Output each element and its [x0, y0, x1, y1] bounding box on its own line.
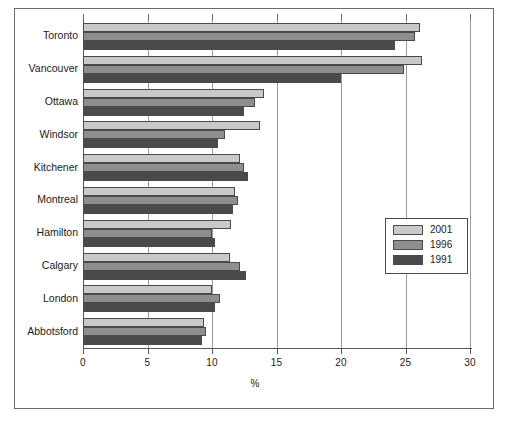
bar-windsor-1996: [83, 130, 225, 139]
tick-top-15: [277, 14, 278, 20]
category-label-windsor: Windsor: [2, 128, 78, 140]
x-tick-label-5: 5: [135, 357, 161, 368]
tick-top-0: [83, 14, 84, 20]
category-label-vancouver: Vancouver: [2, 62, 78, 74]
bar-london-1991: [83, 303, 215, 312]
legend-swatch-1996: [393, 240, 423, 250]
tick-top-5: [148, 14, 149, 20]
category-label-kitchener: Kitchener: [2, 161, 78, 173]
bar-toronto-1996: [83, 32, 415, 41]
tick-top-20: [341, 14, 342, 20]
bar-london-2001: [83, 285, 212, 294]
bar-calgary-2001: [83, 253, 230, 262]
tick-bottom-0: [83, 348, 84, 354]
tick-bottom-15: [277, 348, 278, 354]
tick-top-25: [406, 14, 407, 20]
x-tick-label-10: 10: [199, 357, 225, 368]
bar-ottawa-2001: [83, 89, 264, 98]
tick-top-30: [470, 14, 471, 20]
bottom-caption: [14, 414, 494, 423]
legend-swatch-2001: [393, 225, 423, 235]
bar-abbotsford-1996: [83, 327, 206, 336]
category-label-toronto: Toronto: [2, 29, 78, 41]
tick-bottom-10: [212, 348, 213, 354]
category-label-abbotsford: Abbotsford: [2, 325, 78, 337]
x-tick-label-20: 20: [328, 357, 354, 368]
tick-bottom-20: [341, 348, 342, 354]
bar-hamilton-1996: [83, 229, 212, 238]
x-tick-label-0: 0: [70, 357, 96, 368]
legend-label-1996: 1996: [430, 239, 452, 250]
chart-legend: 2001 1996 1991: [385, 218, 468, 274]
category-label-montreal: Montreal: [2, 193, 78, 205]
bar-ottawa-1991: [83, 107, 244, 116]
tick-bottom-30: [470, 348, 471, 354]
bar-montreal-1996: [83, 196, 238, 205]
x-tick-label-15: 15: [264, 357, 290, 368]
legend-label-2001: 2001: [430, 224, 452, 235]
bar-kitchener-1991: [83, 172, 248, 181]
x-axis-title: %: [0, 378, 510, 389]
bar-windsor-2001: [83, 121, 260, 130]
plot-area: [83, 20, 470, 348]
category-axis-labels: TorontoVancouverOttawaWindsorKitchenerMo…: [0, 0, 78, 423]
x-axis-line: [83, 348, 472, 349]
tick-bottom-25: [406, 348, 407, 354]
bar-windsor-1991: [83, 139, 218, 148]
chart-figure: TorontoVancouverOttawaWindsorKitchenerMo…: [0, 0, 510, 423]
bar-london-1996: [83, 294, 220, 303]
bar-vancouver-2001: [83, 56, 422, 65]
bar-hamilton-2001: [83, 220, 231, 229]
x-tick-label-30: 30: [457, 357, 483, 368]
bar-vancouver-1996: [83, 65, 404, 74]
bar-abbotsford-2001: [83, 318, 204, 327]
bar-ottawa-1996: [83, 98, 255, 107]
category-label-hamilton: Hamilton: [2, 226, 78, 238]
legend-swatch-1991: [393, 255, 423, 265]
category-label-london: London: [2, 292, 78, 304]
bar-toronto-1991: [83, 41, 395, 50]
gridline-30: [470, 20, 471, 348]
x-tick-label-25: 25: [393, 357, 419, 368]
bar-kitchener-2001: [83, 154, 240, 163]
gridline-25: [406, 20, 407, 348]
bar-vancouver-1991: [83, 74, 341, 83]
category-label-calgary: Calgary: [2, 259, 78, 271]
legend-label-1991: 1991: [430, 254, 452, 265]
tick-bottom-5: [148, 348, 149, 354]
bar-montreal-2001: [83, 187, 235, 196]
bar-abbotsford-1991: [83, 336, 202, 345]
category-label-ottawa: Ottawa: [2, 95, 78, 107]
bar-calgary-1996: [83, 262, 240, 271]
bar-montreal-1991: [83, 205, 233, 214]
bar-toronto-2001: [83, 23, 420, 32]
bar-hamilton-1991: [83, 238, 215, 247]
bar-kitchener-1996: [83, 163, 244, 172]
tick-top-10: [212, 14, 213, 20]
bar-calgary-1991: [83, 271, 246, 280]
